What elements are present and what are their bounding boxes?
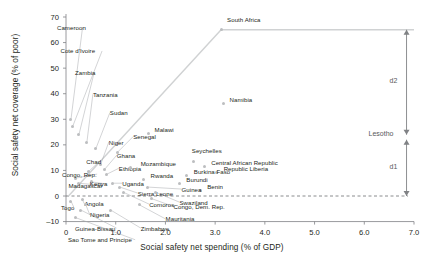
y-axis-title: Social safety net coverage (% of poor) [11,5,20,205]
x-tick-label: 5.0 [300,228,330,237]
y-tick-label: 50 [37,64,59,73]
x-tick-label: 7.0 [399,228,424,237]
data-point[interactable] [109,209,112,212]
point-label: Uganda [122,180,144,187]
data-point[interactable] [154,191,157,194]
scatter-plot-area: 706050403020100–1001.02.03.04.05.06.07.0… [0,0,424,264]
y-tick-label: 10 [37,166,59,175]
annotation-d1: d1 [390,163,398,170]
point-label: Guinea [182,186,202,193]
point-label: Burkina Faso [194,168,231,175]
y-tick-label: –10 [37,217,59,226]
point-label: Seychelles [192,147,222,154]
chart-svg [0,0,424,264]
data-point[interactable] [122,191,125,194]
y-tick-label: 30 [37,115,59,124]
point-label: Comoros [149,201,174,208]
chart-root: 706050403020100–1001.02.03.04.05.06.07.0… [0,0,424,264]
point-label: Angola [84,200,103,207]
point-label: Rwanda [151,172,174,179]
point-label: Tanzania [93,91,118,98]
y-tick-label: 70 [37,13,59,22]
point-label: South Africa [227,16,260,23]
annotation-d2: d2 [390,77,398,84]
point-label: Kenya [90,180,108,187]
point-label: Benin [207,183,223,190]
data-point[interactable] [118,186,121,189]
data-point[interactable] [103,168,106,171]
point-label: Sudan [110,109,128,116]
point-label: Congo, Rep. [62,171,97,178]
point-label: Cameroon [57,24,86,31]
point-label: Namibia [230,96,253,103]
point-label: Ghana [117,152,136,159]
point-label: Malawi [155,126,174,133]
point-label: Mauritania [166,215,195,222]
point-label: Cote d'Ivoire [60,47,95,54]
x-tick-label: 6.0 [349,228,379,237]
x-tick-label: 4.0 [250,228,280,237]
point-label: Chad [86,158,101,165]
point-label: Niger [109,139,124,146]
point-label: Zimbabwe [141,225,170,232]
y-tick-label: 20 [37,140,59,149]
y-tick-label: 40 [37,89,59,98]
data-point[interactable] [178,182,181,185]
point-label: Guinea-Bissau [75,225,116,232]
annotation-lesotho: Lesotho [369,130,394,137]
x-tick-label: 3.0 [200,228,230,237]
y-tick-label: 0 [37,192,59,201]
data-point[interactable] [146,186,149,189]
y-tick-label: 60 [37,38,59,47]
point-label: Mozambique [141,160,176,167]
point-label: Nigeria [90,211,110,218]
point-label: Congo, Dem. Rep. [174,203,225,210]
point-label: Togo [61,204,74,211]
data-point[interactable] [220,28,223,31]
data-point[interactable] [111,182,114,185]
point-label: Senegal [133,133,156,140]
x-axis-title: Social safety net spending (% of GDP) [0,243,424,252]
point-label: Zambia [75,69,96,76]
point-label: Burundi [186,176,207,183]
